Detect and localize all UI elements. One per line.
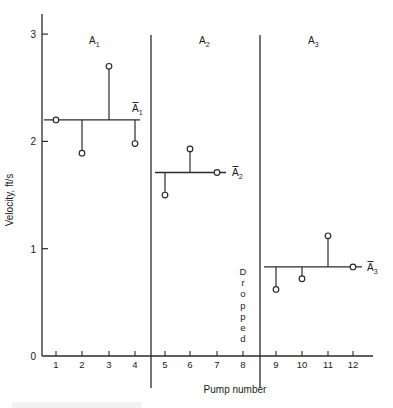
data-point-marker — [162, 192, 168, 198]
dropped-annotation: Dropped — [240, 266, 247, 344]
dropped-letter: d — [240, 333, 245, 344]
data-point-marker — [106, 63, 112, 69]
data-point-marker — [132, 141, 138, 147]
x-tick-label: 4 — [132, 359, 137, 370]
y-tick-label: 0 — [30, 351, 36, 362]
y-tick-label: 2 — [30, 136, 36, 147]
x-tick-label: 1 — [53, 359, 58, 370]
data-point-marker — [53, 117, 59, 123]
mean-label: A1 — [132, 103, 143, 116]
group-title: A3 — [308, 35, 319, 48]
mean-label: A2 — [232, 167, 243, 180]
group-a2: A2A2 — [155, 35, 243, 198]
data-point-marker — [299, 276, 305, 282]
group-a1: A1A1 — [44, 35, 143, 156]
x-axis-label: Pump number — [204, 384, 267, 395]
x-tick-label: 6 — [187, 359, 192, 370]
x-tick-label: 11 — [323, 359, 333, 370]
velocity-by-pump-chart: 0123123456789101112 A1A1A2A2A3A3 Pump nu… — [0, 0, 393, 408]
x-tick-label: 5 — [162, 359, 167, 370]
data-point-marker — [187, 146, 193, 152]
data-point-marker — [325, 233, 331, 239]
dropped-letter: p — [240, 311, 245, 322]
data-point-marker — [273, 287, 279, 293]
x-tick-label: 8 — [240, 359, 245, 370]
x-tick-label: 12 — [348, 359, 359, 370]
dropped-letter: D — [240, 266, 247, 277]
y-tick-label: 1 — [30, 244, 36, 255]
dropped-letter: o — [240, 288, 245, 299]
group-a3: A3A3 — [264, 35, 378, 292]
dropped-letter: e — [240, 322, 245, 333]
x-tick-label: 3 — [106, 359, 111, 370]
y-tick-label: 3 — [30, 29, 36, 40]
x-tick-label: 7 — [214, 359, 219, 370]
data-point-marker — [350, 264, 356, 270]
group-title: A1 — [89, 35, 100, 48]
x-tick-label: 10 — [297, 359, 308, 370]
y-axis-label: Velocity, ft/s — [4, 174, 15, 227]
dropped-letter: r — [241, 277, 244, 288]
x-tick-label: 2 — [79, 359, 84, 370]
x-tick-label: 9 — [273, 359, 278, 370]
mean-label: A3 — [367, 262, 378, 275]
data-groups: A1A1A2A2A3A3 — [44, 35, 378, 292]
caption-cutoff — [12, 402, 142, 408]
dropped-letter: p — [240, 300, 245, 311]
axes: 0123123456789101112 — [30, 14, 373, 388]
data-point-marker — [214, 170, 220, 176]
data-point-marker — [79, 150, 85, 156]
group-title: A2 — [199, 35, 210, 48]
